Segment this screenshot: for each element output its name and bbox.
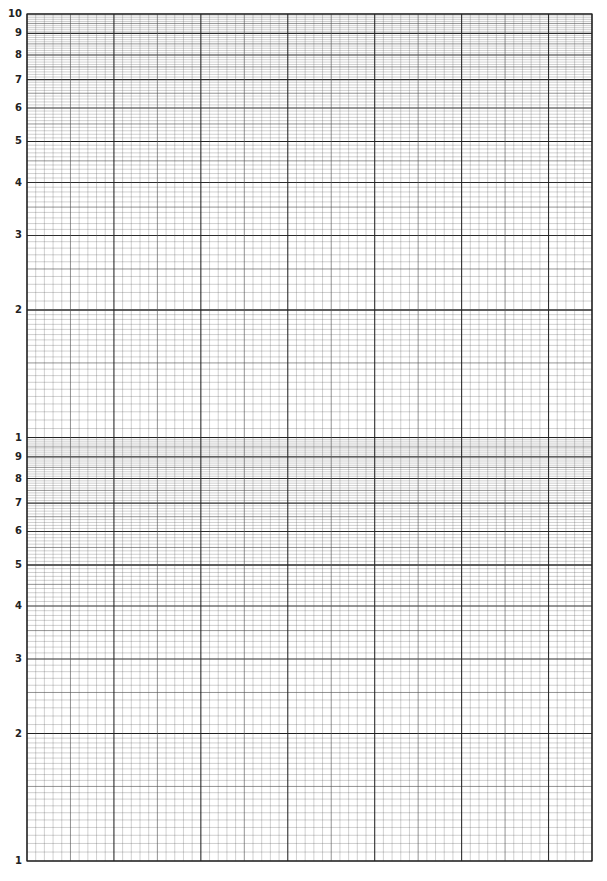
y-axis-label: 8 [0, 474, 22, 484]
y-axis-label: 5 [0, 136, 22, 146]
y-axis-label: 4 [0, 178, 22, 188]
y-axis-label: 6 [0, 103, 22, 113]
y-axis-label: 8 [0, 50, 22, 60]
y-axis-label: 9 [0, 452, 22, 462]
y-axis-label: 1 [0, 856, 22, 866]
y-axis-label: 1 [0, 433, 22, 443]
y-axis-label: 9 [0, 28, 22, 38]
y-axis-label: 7 [0, 498, 22, 508]
y-axis-label: 10 [0, 9, 22, 19]
y-axis-label: 4 [0, 601, 22, 611]
y-axis-label: 2 [0, 305, 22, 315]
semi-log-graph-paper: 10987654321987654321 [0, 0, 607, 881]
grid-lines [0, 0, 607, 881]
y-axis-label: 6 [0, 526, 22, 536]
y-axis-label: 3 [0, 654, 22, 664]
y-axis-label: 7 [0, 75, 22, 85]
y-axis-label: 3 [0, 230, 22, 240]
y-axis-label: 2 [0, 729, 22, 739]
y-axis-label: 5 [0, 560, 22, 570]
